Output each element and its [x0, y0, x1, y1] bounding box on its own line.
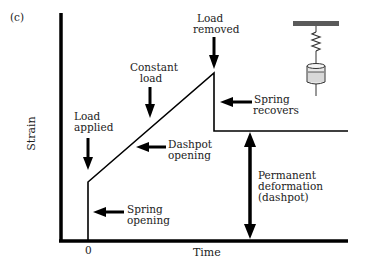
- x-axis-label: Time: [193, 247, 221, 258]
- spring-recovers-label: Spring recovers: [253, 94, 299, 116]
- dashpot-opening-label: Dashpot opening: [168, 139, 212, 161]
- dashpot-icon: [307, 64, 325, 85]
- x-origin-tick-label: 0: [85, 245, 92, 256]
- constant-load-arrow: [145, 87, 155, 118]
- load-applied-label: Load applied: [74, 111, 113, 133]
- permanent-deformation-label: Permanent deformation (dashpot): [258, 170, 323, 203]
- constant-load-label: Constant load: [130, 62, 172, 84]
- panel-label: (c): [10, 12, 24, 23]
- load-removed-arrow: [209, 37, 219, 69]
- load-applied-arrow: [83, 138, 93, 170]
- spring-icon: [312, 32, 320, 51]
- spring-recovers-arrow: [220, 97, 252, 107]
- spring-dashpot-icon: [293, 21, 339, 96]
- strain-time-diagram: [0, 0, 366, 271]
- load-removed-label: Load removed: [193, 13, 239, 35]
- permanent-deformation-arrow: [244, 132, 256, 239]
- y-axis-label: Strain: [26, 116, 37, 150]
- fixed-support-icon: [293, 21, 339, 26]
- spring-opening-arrow: [93, 207, 124, 217]
- dashpot-opening-arrow: [136, 142, 166, 152]
- spring-opening-label: Spring opening: [127, 204, 170, 226]
